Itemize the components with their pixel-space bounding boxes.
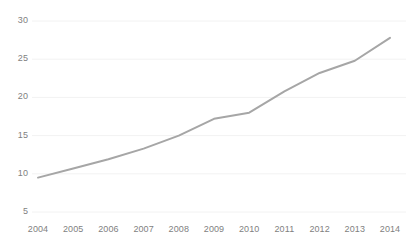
y-axis-label: 25 [2, 53, 28, 63]
x-axis-label: 2007 [127, 224, 161, 234]
x-axis-label: 2005 [56, 224, 90, 234]
x-axis-label: 2013 [338, 224, 372, 234]
y-axis-label: 20 [2, 91, 28, 101]
x-axis-label: 2008 [162, 224, 196, 234]
x-axis-label: 2009 [197, 224, 231, 234]
y-axis-label: 15 [2, 130, 28, 140]
x-axis-label: 2010 [232, 224, 266, 234]
x-axis-label: 2004 [21, 224, 55, 234]
x-axis-label: 2006 [91, 224, 125, 234]
gridlines [32, 21, 406, 212]
x-axis-label: 2011 [267, 224, 301, 234]
x-axis-label: 2014 [373, 224, 407, 234]
y-axis-label: 30 [2, 15, 28, 25]
line-chart: 30252015105 2004200520062007200820092010… [0, 0, 410, 243]
y-axis-label: 5 [2, 206, 28, 216]
chart-plot-area [0, 0, 410, 243]
x-axis-label: 2012 [303, 224, 337, 234]
y-axis-label: 10 [2, 168, 28, 178]
